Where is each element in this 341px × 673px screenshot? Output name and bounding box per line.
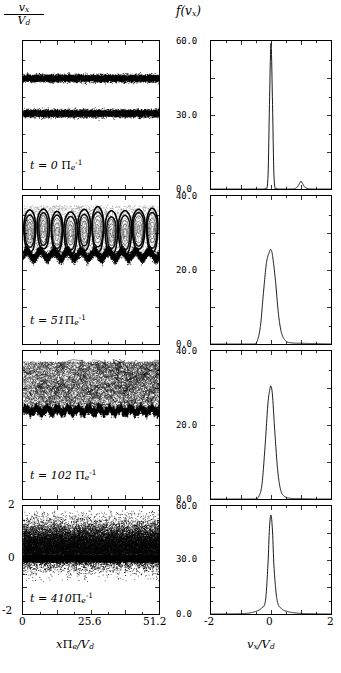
distribution-panel-row3 [210, 350, 332, 500]
left-column-y-axis-label: vx Vd [4, 2, 44, 27]
timestamp-row2: t = 51Πe-1 [30, 313, 86, 327]
dist-ytick-row3-mid: 20.0 [176, 420, 197, 430]
distribution-panel-row2 [210, 195, 332, 345]
distribution-plot-row1 [211, 41, 331, 189]
phase-space-ytick-top: 2 [8, 498, 15, 510]
phase-space-ytick-mid: 0 [8, 551, 15, 563]
dist-ytick-row4-bot: 0.0 [176, 609, 192, 619]
distribution-plot-row2 [211, 196, 331, 344]
phase-space-xlabel: xΠe/Vd [56, 637, 94, 651]
timestamp-row4: t = 410Πe-1 [30, 591, 93, 605]
distribution-panel-row1 [210, 40, 332, 190]
dist-ytick-row3-top: 40.0 [176, 346, 197, 356]
distribution-plot-row4 [211, 506, 331, 614]
phase-space-ytick-bot: -2 [2, 604, 12, 616]
dist-ytick-row4-top: 60.0 [176, 501, 197, 511]
phase-space-xtick-0: 0 [19, 615, 26, 627]
dist-xtick-0: -2 [204, 615, 214, 627]
timestamp-row3: t = 102 Πe-1 [30, 468, 97, 482]
distribution-panel-row4 [210, 505, 332, 615]
dist-ytick-row2-top: 40.0 [176, 191, 197, 201]
dist-ytick-row2-mid: 20.0 [176, 265, 197, 275]
dist-xlabel: vx/Vd [247, 637, 275, 651]
phase-space-xtick-1: 25.6 [78, 615, 101, 627]
phase-space-xtick-2: 51.2 [143, 615, 166, 627]
right-column-y-axis-label: f(vx) [176, 4, 201, 18]
dist-xtick-2: 2 [327, 615, 334, 627]
distribution-plot-row3 [211, 351, 331, 499]
dist-ytick-row1-top: 60.0 [176, 36, 197, 46]
dist-xtick-1: 0 [266, 615, 273, 627]
dist-ytick-row4-mid: 30.0 [176, 554, 197, 564]
timestamp-row1: t = 0 Πe-1 [30, 158, 83, 172]
figure-root: vx Vd f(vx) t = 0 Πe-1 60.0 30.0 0.0 t =… [0, 0, 341, 673]
dist-ytick-row1-mid: 30.0 [176, 110, 197, 120]
